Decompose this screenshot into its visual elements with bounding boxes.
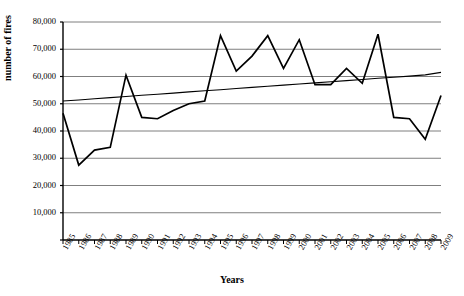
y-tick-label: 30,000 — [12, 153, 56, 162]
y-tick-label: 50,000 — [12, 99, 56, 108]
y-tick-label: 40,000 — [12, 126, 56, 135]
y-tick-label: 10,000 — [12, 208, 56, 217]
fires-per-year-line-chart: number of fires 10,00020,00030,00040,000… — [0, 0, 464, 296]
gridlines — [63, 22, 441, 213]
y-tick-label: 60,000 — [12, 72, 56, 81]
y-tick-label: 80,000 — [12, 17, 56, 26]
y-tick-label: 70,000 — [12, 44, 56, 53]
x-axis-title: Years — [0, 274, 464, 285]
y-tick-label: 20,000 — [12, 181, 56, 190]
plot-area — [0, 0, 464, 296]
data-series-line — [63, 34, 441, 165]
